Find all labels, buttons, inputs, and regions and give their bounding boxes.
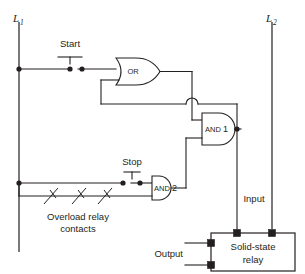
or-output-group	[160, 72, 202, 121]
and1-gate-group: AND 1	[186, 113, 241, 145]
right-rail-subscript: 2	[273, 18, 277, 27]
left-rail-subscript: 1	[20, 18, 24, 27]
solid-state-relay-box	[211, 233, 295, 271]
and2-to-and1-group	[171, 138, 186, 188]
schematic-canvas: OR AND 1	[0, 0, 305, 274]
overload-contacts-group	[19, 183, 152, 204]
and2-gate-number: 2	[172, 183, 177, 193]
and1-gate-number: 1	[223, 124, 228, 134]
l1-top-junction-dot	[16, 66, 21, 71]
relay-name-line1: Solid-state	[231, 241, 276, 252]
left-rail-label: L	[12, 12, 19, 24]
start-contact-dot-left	[67, 66, 72, 71]
relay-input-terminal-left	[234, 230, 241, 237]
stop-contact-dot-left	[120, 180, 125, 185]
and2-gate-label: AND	[154, 184, 170, 193]
start-contact-dot-right	[79, 66, 84, 71]
relay-output-label: Output	[154, 248, 183, 259]
relay-name-line2: relay	[243, 254, 264, 265]
start-branch-group	[16, 57, 116, 72]
schematic-diagram: OR AND 1	[0, 0, 305, 274]
overload-caption-line1: Overload relay	[47, 211, 109, 222]
solid-state-relay-group: Solid-state relay	[185, 230, 295, 272]
stop-contact-dot-right	[137, 180, 142, 185]
stop-branch-group	[16, 172, 152, 186]
overload-caption-line2: contacts	[60, 223, 96, 234]
start-label: Start	[60, 38, 80, 49]
or-gate-group: OR	[101, 58, 160, 85]
relay-input-label: Input	[243, 193, 264, 204]
relay-input-terminal-right	[269, 230, 276, 237]
and1-gate-label: AND	[205, 125, 221, 134]
stop-label: Stop	[122, 156, 142, 167]
or-gate-label: OR	[127, 67, 139, 76]
and2-gate-group: AND 2	[152, 176, 177, 200]
right-rail-label: L	[265, 12, 272, 24]
